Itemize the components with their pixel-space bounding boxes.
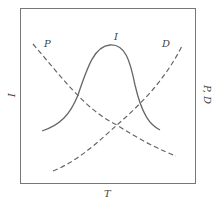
chart: P I D T I P, D	[0, 0, 212, 204]
curve-i	[42, 45, 160, 131]
curve-label-d: D	[161, 38, 170, 49]
y-axis-label-left: I	[6, 92, 17, 98]
curve-p	[33, 44, 176, 156]
curve-label-i: I	[113, 31, 119, 42]
curve-d	[53, 46, 182, 171]
curve-label-p: P	[43, 38, 51, 49]
y-axis-label-right: P, D	[202, 84, 212, 104]
x-axis-label: T	[104, 188, 112, 199]
plot-frame	[21, 9, 196, 184]
